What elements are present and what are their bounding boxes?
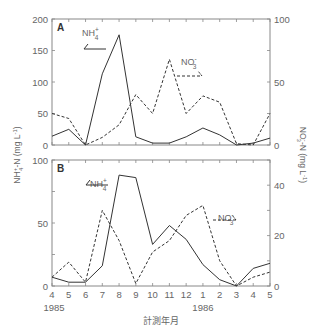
legend-nh4: NH+4 (82, 26, 106, 49)
svg-text:NO-3: NO-3 (181, 55, 197, 70)
right-y-tick-label: 40 (274, 180, 285, 191)
x-tick-label: 2 (217, 289, 222, 300)
x-axis-tick-labels: 4567891011121234519851986 (43, 289, 272, 313)
x-tick-label: 1 (200, 289, 205, 300)
left-y-tick-label: 0 (43, 140, 48, 151)
left-y-tick-label: 50 (37, 108, 48, 119)
right-y-tick-label: 50 (274, 77, 285, 88)
legend-no3: NO-3 (177, 55, 202, 76)
left-y-tick-label: 200 (32, 14, 48, 25)
x-tick-label: 8 (116, 289, 121, 300)
plot-frame (52, 160, 270, 286)
svg-text:NH+4: NH+4 (82, 26, 99, 41)
nh4-no3-time-series-chart: 050100150200050100ANH+4NO-3 05010002040B… (0, 0, 320, 336)
x-axis-title: 計測年月 (143, 315, 179, 326)
left-y-tick-label: 0 (43, 281, 48, 292)
x-tick-label: 5 (267, 289, 272, 300)
year-label: 1985 (43, 302, 64, 313)
legend-nh4: NH+4 (86, 177, 108, 192)
x-tick-label: 5 (66, 289, 71, 300)
svg-text:NO-3: NO-3 (218, 211, 234, 226)
x-tick-label: 11 (164, 289, 174, 300)
x-tick-label: 4 (251, 289, 256, 300)
x-tick-label: 10 (147, 289, 158, 300)
panel-a: 050100150200050100ANH+4NO-3 (32, 14, 290, 151)
panel-label: A (57, 22, 64, 33)
right-y-tick-label: 0 (274, 140, 279, 151)
nh4-series-line (52, 35, 270, 145)
panel-b: 05010002040BNH+4NO-3 (32, 155, 284, 292)
left-y-tick-label: 100 (32, 155, 48, 166)
right-y-tick-label: 100 (274, 14, 290, 25)
x-tick-label: 6 (83, 289, 88, 300)
left-y-tick-label: 50 (37, 218, 48, 229)
x-tick-label: 12 (181, 289, 192, 300)
right-y-tick-label: 20 (274, 230, 285, 241)
no3-series-line (52, 205, 270, 286)
nh4-series-line (52, 175, 270, 286)
left-y-tick-label: 100 (32, 77, 48, 88)
left-y-tick-label: 150 (32, 45, 48, 56)
x-tick-label: 3 (234, 289, 239, 300)
no3-series-line (52, 59, 270, 145)
x-tick-label: 4 (49, 289, 54, 300)
x-tick-label: 9 (133, 289, 138, 300)
year-label: 1986 (192, 302, 213, 313)
x-tick-label: 7 (100, 289, 105, 300)
right-y-axis-title: NO-3-N (mg L-1) (296, 127, 308, 184)
left-y-axis-title: NH+4-N (mg L-1) (12, 126, 24, 184)
legend-no3: NO-3 (213, 211, 236, 226)
right-y-tick-label: 0 (274, 281, 279, 292)
panel-label: B (57, 163, 64, 174)
